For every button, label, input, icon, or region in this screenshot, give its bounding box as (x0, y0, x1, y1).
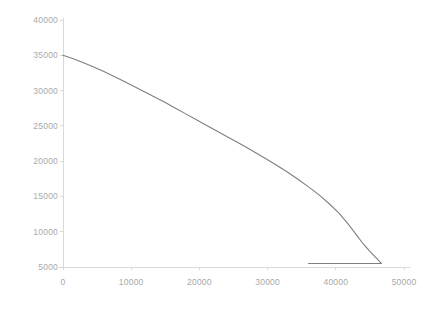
x-tick-label: 30000 (255, 278, 280, 287)
series-line-0 (63, 55, 381, 263)
x-tick-label: 50000 (392, 278, 417, 287)
x-tick-label: 0 (61, 278, 66, 287)
y-tick-label: 35000 (22, 51, 58, 60)
series-layer (63, 55, 381, 263)
x-tick-label: 10000 (119, 278, 144, 287)
chart-container: 500010000150002000025000300003500040000 … (0, 0, 439, 312)
plot-area (0, 0, 439, 312)
axis-lines (59, 18, 410, 267)
x-tick-label: 20000 (187, 278, 212, 287)
y-tick-label: 40000 (22, 16, 58, 25)
y-tick-label: 5000 (22, 263, 58, 272)
y-tick-label: 30000 (22, 86, 58, 95)
tick-marks (60, 20, 404, 270)
x-tick-label: 40000 (323, 278, 348, 287)
y-tick-label: 25000 (22, 122, 58, 131)
y-tick-label: 10000 (22, 227, 58, 236)
y-tick-label: 15000 (22, 192, 58, 201)
y-tick-label: 20000 (22, 157, 58, 166)
